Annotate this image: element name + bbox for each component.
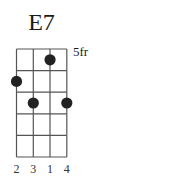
finger-label: 4	[61, 163, 73, 175]
finger-label: 2	[11, 163, 23, 175]
string-lines	[17, 49, 67, 157]
finger-dots	[11, 54, 73, 108]
fret-lines	[17, 49, 67, 157]
finger-dot	[61, 97, 72, 108]
finger-dot	[44, 54, 55, 65]
finger-dot	[11, 76, 22, 87]
chord-grid	[0, 0, 190, 183]
finger-label: 3	[27, 163, 39, 175]
finger-dot	[28, 97, 39, 108]
finger-label: 1	[44, 163, 56, 175]
